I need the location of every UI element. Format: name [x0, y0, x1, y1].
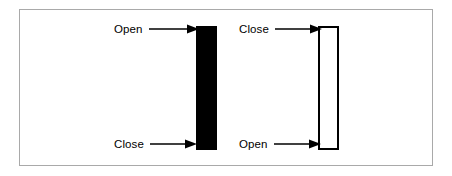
arrow-right-icon [149, 23, 199, 35]
arrow-right-icon [274, 138, 321, 150]
diagram-frame [19, 9, 433, 166]
annotation-label: Close [114, 136, 144, 152]
annotation-hollow-close: Close [239, 21, 322, 37]
hollow-candle-body [318, 26, 339, 150]
diagram-canvas: Open Close Close Open [0, 0, 452, 176]
annotation-label: Open [239, 136, 268, 152]
annotation-label: Open [114, 21, 143, 37]
annotation-filled-close: Close [114, 136, 197, 152]
arrow-right-icon [275, 23, 322, 35]
filled-candle-body [196, 26, 217, 150]
arrow-right-icon [150, 138, 197, 150]
annotation-label: Close [239, 21, 269, 37]
annotation-filled-open: Open [114, 21, 199, 37]
annotation-hollow-open: Open [239, 136, 321, 152]
